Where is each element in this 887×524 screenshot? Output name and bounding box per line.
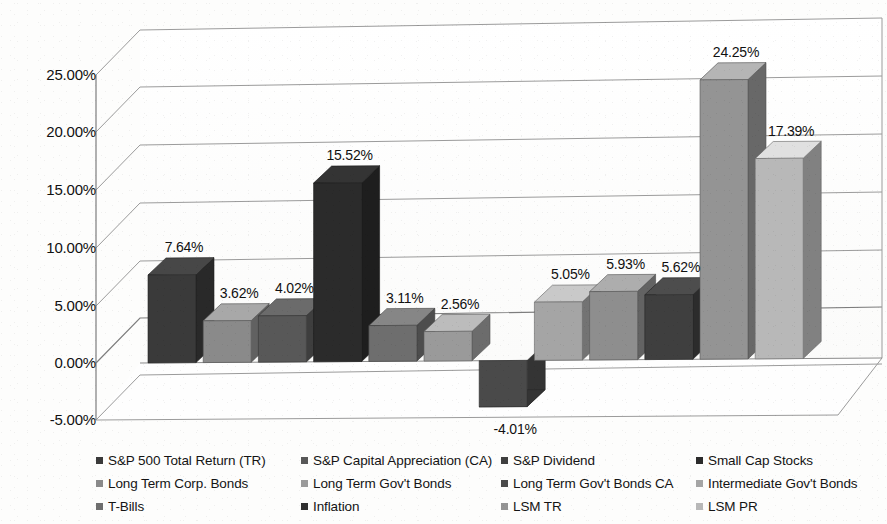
data-label-3: 4.02%: [275, 280, 314, 296]
legend-label: Inflation: [313, 500, 359, 514]
y-tick-neg5: -5.00%: [10, 411, 96, 428]
bar-12[interactable]: [755, 141, 821, 359]
legend-item[interactable]: Long Term Gov't Bonds CA: [501, 473, 674, 494]
legend-swatch-icon: [301, 457, 308, 464]
data-label-10: 5.62%: [661, 259, 700, 275]
legend-item[interactable]: Long Term Gov't Bonds: [301, 473, 451, 494]
y-tick-10: 10.00%: [10, 239, 96, 256]
legend-swatch-icon: [501, 457, 508, 464]
legend-label: Long Term Corp. Bonds: [108, 477, 248, 491]
chart-plot-svg: [0, 0, 887, 444]
legend-swatch-icon: [501, 480, 508, 487]
legend-item[interactable]: LSM PR: [696, 496, 758, 517]
bar-front-face: [645, 295, 693, 360]
legend-label: S&P Dividend: [513, 454, 595, 468]
legend-item[interactable]: Intermediate Gov't Bonds: [696, 473, 858, 494]
y-tick-25: 25.00%: [10, 66, 96, 83]
chart-legend: S&P 500 Total Return (TR)S&P Capital App…: [96, 450, 876, 520]
legend-swatch-icon: [96, 480, 103, 487]
legend-item[interactable]: S&P Dividend: [501, 450, 595, 471]
bar-front-face: [369, 325, 417, 361]
legend-item[interactable]: S&P Capital Appreciation (CA): [301, 450, 492, 471]
bar-front-face: [590, 291, 638, 360]
y-tick-5: 5.00%: [10, 297, 96, 314]
bar-front-face: [479, 360, 527, 407]
legend-item[interactable]: S&P 500 Total Return (TR): [96, 450, 266, 471]
bar-front-face: [700, 80, 748, 360]
legend-item[interactable]: T-Bills: [96, 496, 144, 517]
bar-front-face: [314, 183, 362, 362]
legend-swatch-icon: [696, 480, 703, 487]
bar-side-face: [803, 141, 821, 358]
legend-swatch-icon: [501, 503, 508, 510]
data-label-9: 5.93%: [606, 256, 645, 272]
y-tick-0: 0.00%: [10, 354, 96, 371]
data-label-8: 5.05%: [551, 266, 590, 282]
legend-swatch-icon: [301, 503, 308, 510]
bar-front-face: [534, 302, 582, 360]
data-label-4: 15.52%: [326, 147, 372, 163]
legend-row-1: S&P 500 Total Return (TR)S&P Capital App…: [96, 450, 876, 471]
legend-label: Intermediate Gov't Bonds: [708, 477, 858, 491]
legend-swatch-icon: [301, 480, 308, 487]
bar-front-face: [755, 158, 803, 359]
data-label-5: 3.11%: [386, 290, 424, 306]
bar-front-face: [258, 316, 306, 363]
legend-row-3: T-BillsInflationLSM TRLSM PR: [96, 496, 876, 517]
legend-label: S&P Capital Appreciation (CA): [313, 454, 492, 468]
legend-label: Long Term Gov't Bonds: [313, 477, 451, 491]
data-label-6: 2.56%: [441, 296, 480, 312]
y-axis: 25.00% 20.00% 15.00% 10.00% 5.00% 0.00% …: [0, 0, 96, 444]
legend-label: S&P 500 Total Return (TR): [108, 454, 266, 468]
legend-swatch-icon: [96, 457, 103, 464]
data-label-1: 7.64%: [165, 239, 204, 255]
legend-item[interactable]: Inflation: [301, 496, 359, 517]
bar-front-face: [148, 275, 196, 363]
legend-swatch-icon: [96, 503, 103, 510]
data-label-2: 3.62%: [220, 285, 259, 301]
legend-label: T-Bills: [108, 500, 144, 514]
legend-label: Long Term Gov't Bonds CA: [513, 477, 674, 491]
data-label-11: 24.25%: [713, 44, 759, 60]
y-tick-20: 20.00%: [10, 123, 96, 140]
legend-label: LSM PR: [708, 500, 758, 514]
chart-page: 25.00% 20.00% 15.00% 10.00% 5.00% 0.00% …: [0, 0, 887, 524]
legend-item[interactable]: Small Cap Stocks: [696, 450, 813, 471]
y-tick-15: 15.00%: [10, 181, 96, 198]
data-label-12: 17.39%: [768, 123, 814, 139]
legend-row-2: Long Term Corp. BondsLong Term Gov't Bon…: [96, 473, 876, 494]
bar-front-face: [424, 331, 472, 361]
data-label-7: -4.01%: [494, 421, 537, 437]
legend-item[interactable]: LSM TR: [501, 496, 562, 517]
legend-swatch-icon: [696, 503, 703, 510]
legend-label: Small Cap Stocks: [708, 454, 813, 468]
bar-chart: 25.00% 20.00% 15.00% 10.00% 5.00% 0.00% …: [0, 0, 887, 444]
legend-label: LSM TR: [513, 500, 562, 514]
legend-item[interactable]: Long Term Corp. Bonds: [96, 473, 248, 494]
bar-front-face: [203, 321, 251, 363]
legend-swatch-icon: [696, 457, 703, 464]
